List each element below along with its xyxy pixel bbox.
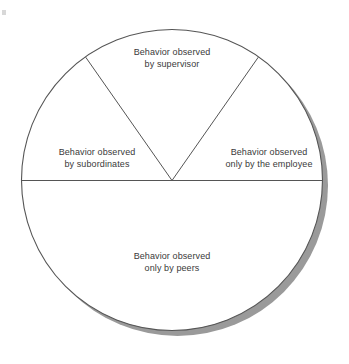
segment-label-peers: Behavior observed only by peers [104,250,240,274]
diagram-canvas: Behavior observed by supervisor Behavior… [0,0,349,364]
segment-label-subordinates-line2: by subordinates [34,158,160,170]
segment-label-supervisor: Behavior observed by supervisor [104,46,240,70]
segment-label-subordinates-line1: Behavior observed [34,146,160,158]
segment-label-employee: Behavior observed only by the employee [196,146,342,170]
segment-label-subordinates: Behavior observed by subordinates [34,146,160,170]
segment-label-supervisor-line2: by supervisor [104,58,240,70]
scan-artifact-mark [2,10,6,15]
segment-label-employee-line1: Behavior observed [196,146,342,158]
segment-label-supervisor-line1: Behavior observed [104,46,240,58]
segment-label-peers-line2: only by peers [104,262,240,274]
segment-label-peers-line1: Behavior observed [104,250,240,262]
segment-label-employee-line2: only by the employee [196,158,342,170]
